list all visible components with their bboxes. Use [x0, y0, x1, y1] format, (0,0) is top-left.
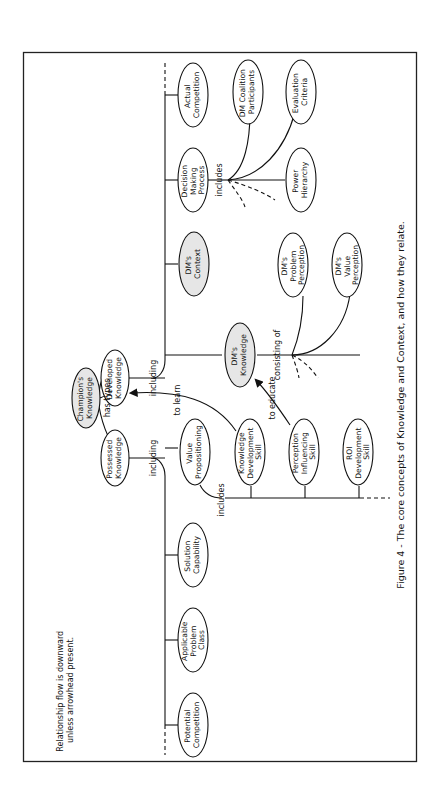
svg-text:DM Coalition Participant: DM Coalition Participants	[238, 67, 256, 118]
svg-text:DM's Context: DM's Context	[184, 249, 202, 279]
edge-label-to-educate: to educate	[268, 376, 277, 419]
node-champions-knowledge: Champion's Knowledge	[72, 368, 100, 428]
node-value-propositioning: Value Propositioning	[180, 419, 210, 485]
edge-label-including-possessed: including	[149, 440, 158, 476]
node-dms-knowledge: DM's Knowledge	[225, 323, 255, 387]
edge-label-includes-dmp: includes	[215, 163, 224, 196]
node-dm-coalition-participants: DM Coalition Participants	[233, 60, 263, 124]
node-potential-competition: Potential Competition	[178, 693, 208, 757]
svg-text:Possessed Knowledge: Possessed Knowledge	[105, 437, 123, 479]
svg-text:Solution Capability: Solution Capability	[183, 535, 201, 574]
concept-diagram: Champion's Knowledge Possessed Knowledge…	[0, 0, 437, 796]
edge-label-including-developed: including	[149, 360, 158, 396]
svg-text:Potential Competition: Potential Competition	[183, 702, 201, 749]
node-decision-making-process: Decision Making Process	[178, 148, 208, 212]
node-dms-context: DM's Context	[179, 232, 209, 296]
edges	[98, 63, 390, 755]
node-roi-development-skill: ROI Development Skill	[343, 419, 373, 485]
node-solution-capability: Solution Capability	[178, 523, 208, 587]
edge-label-has-types: has types	[103, 379, 112, 418]
node-possessed-knowledge: Possessed Knowledge	[101, 430, 129, 486]
node-evaluation-criteria: Evaluation Criteria	[286, 60, 316, 124]
edge-label-consisting-of: consisting of	[273, 329, 282, 380]
flow-note: Relationship flow is downward unless arr…	[56, 628, 75, 751]
node-perception-influencing-skill: Perception Influencing Skill	[289, 419, 319, 485]
node-dms-value-perception: DM's Value Perception	[332, 233, 362, 297]
node-dms-problem-perception: DM's Problem Perception	[278, 233, 308, 297]
svg-text:Champion's Knowledge: Champion's Knowledge	[76, 374, 94, 421]
node-knowledge-development-skill: Knowledge Development Skill	[235, 419, 265, 485]
node-actual-competition: Actual Competition	[178, 63, 208, 127]
edge-label-includes-value-prop: includes	[217, 483, 226, 516]
node-power-hierarchy: Power Hierarchy	[286, 148, 316, 212]
figure-caption: Figure 4 - The core concepts of Knowledg…	[395, 221, 406, 589]
svg-text:Decision Making Pr: Decision Making Process	[180, 163, 206, 198]
node-applicable-problem-class: Applicable Problem Class	[178, 608, 208, 672]
edge-label-to-learn: to learn	[173, 385, 182, 416]
